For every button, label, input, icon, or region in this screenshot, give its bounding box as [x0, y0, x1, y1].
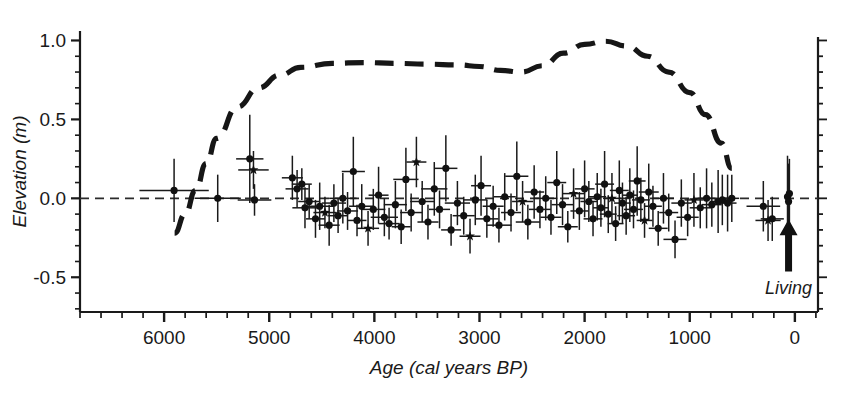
chart-background: [0, 0, 842, 393]
y-axis-title: Elevation (m): [9, 116, 30, 228]
data-point-marker: [697, 204, 704, 211]
data-point-marker: [334, 212, 341, 219]
data-point-marker: [524, 218, 531, 225]
data-point-marker: [448, 226, 455, 233]
data-point-marker: [501, 193, 508, 200]
data-point-marker: [559, 201, 566, 208]
y-tick-label: -0.5: [33, 267, 66, 288]
data-point-marker: [703, 195, 710, 202]
data-point-marker: [626, 192, 633, 199]
data-point-marker: [301, 204, 308, 211]
data-point-marker: [785, 198, 792, 205]
data-point-marker: [612, 220, 619, 227]
data-point-marker: [316, 203, 323, 210]
data-point-marker: [289, 174, 296, 181]
data-point-marker: [678, 199, 685, 206]
x-tick-label: 6000: [143, 327, 185, 348]
data-point-marker: [214, 195, 221, 202]
data-point-marker: [454, 199, 461, 206]
x-tick-label: 0: [790, 327, 801, 348]
data-point-marker: [786, 190, 793, 197]
data-point-marker: [375, 192, 382, 199]
data-point-marker: [645, 188, 652, 195]
data-point-marker: [660, 195, 667, 202]
sea-level-scatter-chart: 1.00.50.0-0.5 6000500040003000200010000 …: [0, 0, 842, 393]
data-point-marker: [594, 193, 601, 200]
data-point-marker: [597, 204, 604, 211]
y-tick-label: 0.0: [40, 188, 66, 209]
data-point-marker: [589, 215, 596, 222]
living-annotation-label: Living: [765, 278, 812, 298]
data-point-marker: [542, 195, 549, 202]
x-tick-label: 1000: [669, 327, 711, 348]
data-point-marker: [436, 206, 443, 213]
data-point-marker: [330, 199, 337, 206]
data-point-marker: [312, 215, 319, 222]
data-point-marker: [392, 201, 399, 208]
data-point-marker: [769, 215, 776, 222]
x-tick-label: 4000: [353, 327, 395, 348]
data-point-marker: [472, 196, 479, 203]
data-point-marker: [442, 165, 449, 172]
data-point-marker: [623, 212, 630, 219]
data-point-marker: [564, 223, 571, 230]
data-point-marker: [576, 207, 583, 214]
data-point-marker: [513, 173, 520, 180]
y-tick-label: 1.0: [40, 30, 66, 51]
data-point-marker: [339, 195, 346, 202]
data-point-marker: [616, 187, 623, 194]
data-point-marker: [634, 177, 641, 184]
data-point-marker: [655, 225, 662, 232]
x-tick-label: 3000: [458, 327, 500, 348]
data-point-marker: [547, 214, 554, 221]
data-point-marker: [246, 155, 253, 162]
data-point-marker: [490, 203, 497, 210]
data-point-marker: [684, 214, 691, 221]
data-point-marker: [419, 198, 426, 205]
data-point-marker: [637, 196, 644, 203]
data-point-marker: [665, 209, 672, 216]
data-point-marker: [585, 198, 592, 205]
data-point-marker: [619, 199, 626, 206]
data-point-marker: [358, 203, 365, 210]
data-point-marker: [671, 236, 678, 243]
data-point-marker: [385, 220, 392, 227]
data-point-marker: [601, 181, 608, 188]
data-point-marker: [553, 179, 560, 186]
data-point-marker: [398, 223, 405, 230]
data-point-marker: [350, 168, 357, 175]
x-tick-label: 5000: [248, 327, 290, 348]
data-point-marker: [605, 211, 612, 218]
x-tick-label: 2000: [563, 327, 605, 348]
data-point-marker: [477, 182, 484, 189]
data-point-marker: [424, 218, 431, 225]
data-point-marker: [630, 206, 637, 213]
data-point-marker: [431, 185, 438, 192]
data-point-marker: [708, 201, 715, 208]
data-point-marker: [306, 198, 313, 205]
data-point-marker: [170, 187, 177, 194]
data-point-marker: [507, 209, 514, 216]
x-axis-title: Age (cal years BP): [369, 357, 528, 378]
data-point-marker: [460, 212, 467, 219]
figure-container: 1.00.50.0-0.5 6000500040003000200010000 …: [0, 0, 842, 393]
data-point-marker: [251, 196, 258, 203]
data-point-marker: [353, 217, 360, 224]
data-point-marker: [402, 176, 409, 183]
data-point-marker: [326, 222, 333, 229]
data-point-marker: [536, 206, 543, 213]
data-point-marker: [728, 195, 735, 202]
data-point-marker: [649, 203, 656, 210]
data-point-marker: [370, 206, 377, 213]
data-point-marker: [381, 214, 388, 221]
data-point-marker: [298, 181, 305, 188]
y-tick-label: 0.5: [40, 109, 66, 130]
data-point-marker: [581, 185, 588, 192]
data-point-marker: [531, 188, 538, 195]
data-point-marker: [344, 207, 351, 214]
data-point-marker: [760, 203, 767, 210]
data-point-marker: [408, 209, 415, 216]
data-point-marker: [495, 222, 502, 229]
data-point-marker: [483, 215, 490, 222]
